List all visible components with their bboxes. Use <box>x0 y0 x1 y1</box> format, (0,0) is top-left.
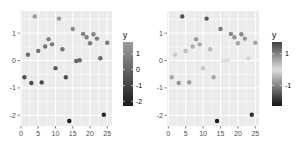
y-tick-label: 0 <box>159 57 163 64</box>
data-point <box>187 80 191 84</box>
data-point <box>26 53 30 57</box>
data-point <box>225 58 229 62</box>
data-point <box>201 66 205 70</box>
data-point <box>67 119 71 123</box>
data-point <box>81 32 85 36</box>
panel-background <box>167 11 259 126</box>
data-point <box>180 14 184 18</box>
data-point <box>170 75 174 79</box>
x-tick-label: 15 <box>217 130 225 137</box>
x-tick-label: 0 <box>166 130 170 137</box>
legend-label: -1 <box>136 82 142 89</box>
data-point <box>173 53 177 57</box>
panel-background <box>20 11 112 126</box>
data-point <box>98 56 102 60</box>
legend-label: 0 <box>136 66 140 73</box>
color-legend-bar <box>272 42 282 106</box>
data-point <box>102 113 106 117</box>
plot-canvas-left: 0510152025-2-101y10-1-2 <box>0 0 151 147</box>
legend-label: -2 <box>136 98 142 105</box>
data-point <box>40 80 44 84</box>
data-point <box>194 37 198 41</box>
legend-title: y <box>272 30 277 40</box>
data-point <box>236 41 240 45</box>
x-tick-label: 10 <box>199 130 207 137</box>
scatter-plot-right: 0510152025-2-101y1-1 <box>151 0 302 147</box>
data-point <box>60 47 64 51</box>
data-point <box>57 16 61 20</box>
legend-label: 1 <box>285 50 289 57</box>
data-point <box>105 40 109 44</box>
data-point <box>84 35 88 39</box>
x-tick-label: 20 <box>86 130 94 137</box>
y-tick-label: -2 <box>10 112 16 119</box>
data-point <box>253 40 257 44</box>
y-tick-label: 0 <box>12 57 16 64</box>
data-point <box>250 113 254 117</box>
data-point <box>190 44 194 48</box>
data-point <box>246 56 250 60</box>
data-point <box>64 75 68 79</box>
plot-canvas-right: 0510152025-2-101y1-1 <box>151 0 302 147</box>
x-tick-label: 5 <box>184 130 188 137</box>
legend-label: -1 <box>285 82 291 89</box>
data-point <box>50 42 54 46</box>
data-point <box>91 32 95 36</box>
data-point <box>215 119 219 123</box>
x-tick-label: 10 <box>52 130 60 137</box>
data-point <box>243 36 247 40</box>
color-legend-bar <box>123 42 133 106</box>
y-tick-label: -1 <box>157 84 163 91</box>
data-point <box>22 75 26 79</box>
legend-title: y <box>123 30 128 40</box>
y-tick-label: -1 <box>10 84 16 91</box>
x-tick-label: 0 <box>19 130 23 137</box>
data-point <box>29 81 33 85</box>
x-tick-label: 25 <box>103 130 111 137</box>
x-tick-label: 5 <box>36 130 40 137</box>
data-point <box>184 49 188 53</box>
data-point <box>33 14 37 18</box>
data-point <box>229 32 233 36</box>
data-point <box>71 27 75 31</box>
scatter-plot-left: 0510152025-2-101y10-1-2 <box>0 0 151 147</box>
data-point <box>43 44 47 48</box>
data-point <box>46 37 50 41</box>
data-point <box>53 66 57 70</box>
data-point <box>218 27 222 31</box>
x-tick-label: 15 <box>69 130 77 137</box>
legend-label: 1 <box>136 50 140 57</box>
y-tick-label: 1 <box>159 30 163 37</box>
data-point <box>95 36 99 40</box>
data-point <box>77 58 81 62</box>
data-point <box>211 75 215 79</box>
y-tick-label: -2 <box>157 112 163 119</box>
data-point <box>232 35 236 39</box>
data-point <box>208 47 212 51</box>
data-point <box>239 32 243 36</box>
data-point <box>204 16 208 20</box>
x-tick-label: 25 <box>251 130 259 137</box>
data-point <box>88 41 92 45</box>
x-tick-label: 20 <box>234 130 242 137</box>
data-point <box>197 42 201 46</box>
data-point <box>177 81 181 85</box>
y-tick-label: 1 <box>12 30 16 37</box>
data-point <box>36 49 40 53</box>
